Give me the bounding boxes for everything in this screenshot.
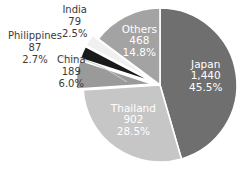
slice-label-china-value: 189 (57, 66, 86, 78)
pie-chart-canvas: Japan1,44045.5%Thailand90228.5%Others468… (0, 0, 246, 179)
slice-label-philippines-value: 87 (8, 42, 62, 54)
slice-label-china-percent: 6.0% (57, 78, 86, 90)
slice-label-india-value: 79 (62, 16, 87, 28)
slice-label-philippines: Philippines 87 2.7% (8, 30, 62, 66)
slice-label-india-name: India (62, 4, 87, 16)
slice-label-japan: Japan1,44045.5% (189, 58, 222, 93)
slice-label-china: China 189 6.0% (57, 54, 86, 90)
pie-chart: Japan1,44045.5%Thailand90228.5%Others468… (0, 0, 246, 179)
slice-label-india: India 79 2.5% (62, 4, 87, 40)
slice-label-philippines-percent: 2.7% (8, 54, 62, 66)
slice-label-china-name: China (57, 54, 86, 66)
slice-label-philippines-name: Philippines (8, 30, 62, 42)
slice-label-india-percent: 2.5% (62, 28, 87, 40)
